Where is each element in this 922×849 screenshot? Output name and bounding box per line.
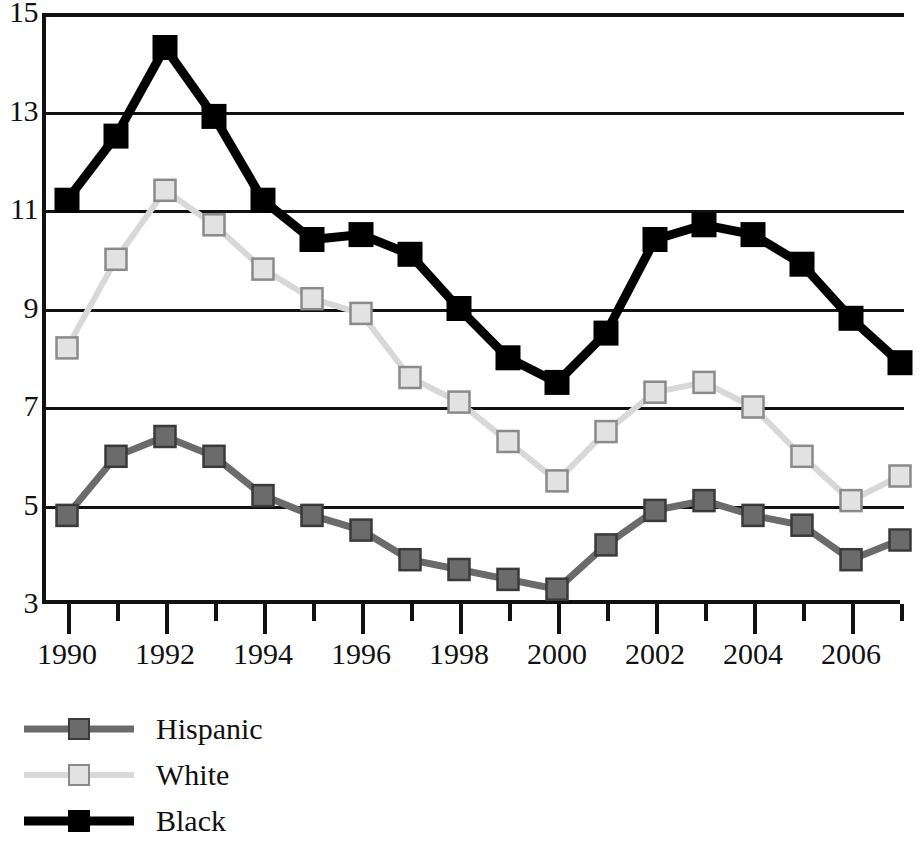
x-tick-label: 1992 [135,638,195,670]
chart-plot-area: 3579111315 19901992199419961998200020022… [0,0,922,700]
chart-legend: HispanicWhiteBlack [0,700,922,849]
x-tick-label: 2006 [821,638,881,670]
x-tick-label: 1998 [429,638,489,670]
legend-marker [68,718,90,740]
x-tick-major [361,604,365,634]
x-tick-label: 2004 [723,638,783,670]
x-tick-label: 1990 [37,638,97,670]
legend-marker [68,764,90,786]
x-tick-major [655,604,659,634]
y-tick-label: 15 [0,0,38,27]
plot-frame [42,13,900,604]
gridline-7 [46,407,904,410]
gridline-9 [46,309,904,312]
x-tick-minor [116,604,120,621]
x-tick-major [557,604,561,634]
x-tick-major [165,604,169,634]
x-tick-label: 1994 [233,638,293,670]
legend-marker [68,810,90,832]
y-tick-label: 7 [0,391,38,421]
x-tick-minor [214,604,218,621]
gridline-13 [46,112,904,115]
legend-item-black[interactable]: Black [24,798,226,844]
x-tick-label: 2000 [527,638,587,670]
x-tick-label: 2002 [625,638,685,670]
legend-item-hispanic[interactable]: Hispanic [24,706,263,752]
legend-item-white[interactable]: White [24,752,229,798]
chart-root: 3579111315 19901992199419961998200020022… [0,0,922,849]
y-tick-label: 5 [0,490,38,520]
x-tick-minor [802,604,806,621]
y-tick-label: 3 [0,588,38,618]
x-tick-minor [410,604,414,621]
y-tick-label: 11 [0,194,38,224]
gridline-11 [46,210,904,213]
legend-swatch [24,714,134,744]
y-tick-label: 9 [0,293,38,323]
x-tick-major [851,604,855,634]
y-tick-label: 13 [0,96,38,126]
legend-label: White [156,759,229,791]
x-tick-label: 1996 [331,638,391,670]
gridline-5 [46,506,904,509]
gridline-15 [46,13,904,17]
x-tick-minor [312,604,316,621]
legend-swatch [24,806,134,836]
x-tick-minor [704,604,708,621]
x-tick-major [459,604,463,634]
x-tick-major [263,604,267,634]
x-tick-major [67,604,71,634]
legend-swatch [24,760,134,790]
legend-label: Black [156,805,226,837]
x-tick-major [753,604,757,634]
x-tick-minor [606,604,610,621]
x-tick-minor [508,604,512,621]
x-tick-minor [900,604,904,621]
legend-label: Hispanic [156,713,263,745]
y-axis-labels: 3579111315 [0,0,38,700]
